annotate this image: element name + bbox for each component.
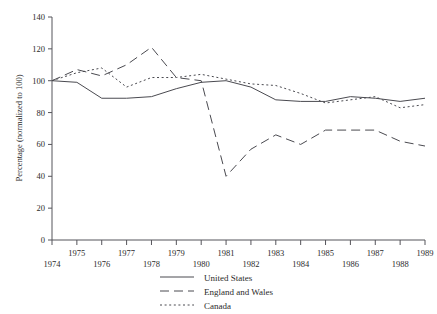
y-tick-label: 120 [32, 44, 45, 54]
x-tick-label: 1987 [367, 248, 384, 258]
y-tick-label: 80 [37, 108, 46, 118]
chart-legend: United StatesEngland and WalesCanada [160, 273, 274, 311]
legend-label-england-and-wales: England and Wales [204, 287, 274, 297]
y-axis-tick-labels: 020406080100120140 [32, 12, 45, 245]
x-axis-tick-labels: 1974197519761977197819791980198119821983… [44, 248, 434, 269]
y-tick-label: 40 [37, 171, 46, 181]
y-tick-label: 60 [37, 139, 46, 149]
y-axis-ticks [48, 17, 52, 240]
plot-axes [52, 17, 425, 240]
legend-label-canada: Canada [204, 301, 231, 311]
x-tick-label: 1978 [143, 259, 160, 269]
x-tick-label: 1980 [193, 259, 210, 269]
x-tick-label: 1988 [392, 259, 409, 269]
x-tick-label: 1986 [342, 259, 359, 269]
data-series-group [52, 47, 425, 176]
line-chart: 020406080100120140 197419751976197719781… [0, 0, 437, 314]
x-tick-label: 1975 [68, 248, 85, 258]
y-tick-label: 20 [37, 203, 46, 213]
legend-label-united-states: United States [204, 273, 253, 283]
y-tick-label: 100 [32, 76, 45, 86]
x-tick-label: 1981 [218, 248, 235, 258]
x-tick-label: 1979 [168, 248, 185, 258]
series-line-england-and-wales [52, 47, 425, 176]
x-axis-ticks [52, 240, 425, 245]
x-tick-label: 1976 [93, 259, 110, 269]
x-tick-label: 1982 [242, 259, 259, 269]
x-tick-label: 1977 [118, 248, 135, 258]
x-tick-label: 1989 [417, 248, 434, 258]
x-tick-label: 1983 [267, 248, 284, 258]
y-tick-label: 0 [41, 235, 45, 245]
x-tick-label: 1974 [44, 259, 62, 269]
x-tick-label: 1985 [317, 248, 334, 258]
y-tick-label: 140 [32, 12, 45, 22]
figure: 020406080100120140 197419751976197719781… [0, 0, 437, 314]
y-axis-title: Percentage (normalized to 100) [14, 74, 24, 181]
x-tick-label: 1984 [292, 259, 310, 269]
series-line-united-states [52, 81, 425, 102]
series-line-canada [52, 68, 425, 108]
